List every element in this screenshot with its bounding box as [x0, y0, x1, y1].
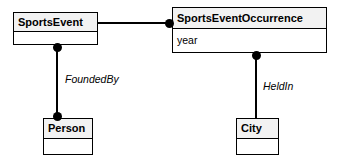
association-dot-occurrence-bottom — [252, 51, 261, 60]
class-name-sportsevent: SportsEvent — [14, 13, 97, 32]
class-name-sportseventoccurrence: SportsEventOccurrence — [173, 8, 326, 29]
class-name-city: City — [237, 119, 278, 139]
association-line-sportsevent-person — [56, 44, 58, 119]
association-line-sportsevent-occurrence — [96, 22, 174, 24]
class-box-city[interactable]: City — [236, 118, 279, 155]
diagram-canvas: FoundedBy HeldIn SportsEvent SportsEvent… — [0, 0, 339, 158]
class-attributes-city — [237, 139, 278, 154]
class-box-person[interactable]: Person — [43, 118, 93, 155]
association-dot-sportsevent-bottom — [53, 43, 62, 52]
association-dot-occurrence-left — [165, 19, 174, 28]
association-line-occurrence-city — [255, 52, 257, 119]
association-dot-person-top — [53, 112, 62, 121]
class-box-sportsevent[interactable]: SportsEvent — [13, 12, 98, 45]
class-box-sportseventoccurrence[interactable]: SportsEventOccurrence year — [172, 7, 327, 53]
association-label-foundedby: FoundedBy — [65, 74, 119, 85]
association-label-heldin: HeldIn — [263, 81, 293, 92]
class-attributes-sportseventoccurrence: year — [173, 29, 326, 52]
class-name-person: Person — [44, 119, 92, 139]
class-attributes-person — [44, 139, 92, 154]
